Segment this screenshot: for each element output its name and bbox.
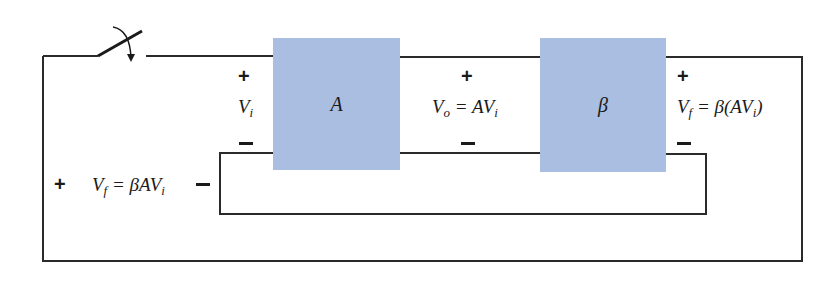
loop-plus-sign: + <box>54 174 66 194</box>
feedback-block: β <box>540 38 666 172</box>
outer-right-wire <box>801 56 803 262</box>
feedback-label: β <box>598 94 608 117</box>
input-plus-sign: + <box>238 66 250 86</box>
feedback-diagram: A β + Vi + Vo = AVi + Vf = β(AVi) + Vf =… <box>0 0 832 286</box>
feedback-top-output-wire <box>665 56 803 58</box>
mid-top-wire <box>400 56 540 58</box>
input-bottom-wire <box>220 152 273 154</box>
amplifier-label: A <box>330 93 342 116</box>
outer-bottom-wire <box>42 260 803 262</box>
amplifier-block: A <box>273 38 400 170</box>
feedback-minus-sign <box>677 142 691 145</box>
inner-left-wire <box>219 152 221 215</box>
input-minus-sign <box>239 142 253 145</box>
feedback-plus-sign: + <box>677 66 689 86</box>
feedback-voltage-label: Vf = β(AVi) <box>677 97 763 119</box>
input-voltage-label: Vi <box>238 97 253 119</box>
inner-bottom-wire <box>219 213 707 215</box>
loop-minus-sign <box>196 183 210 186</box>
output-plus-sign: + <box>461 66 473 86</box>
output-minus-sign <box>461 142 475 145</box>
outer-left-wire <box>42 56 44 262</box>
feedback-bottom-output-wire <box>665 153 707 155</box>
switch-icon <box>0 0 832 286</box>
loop-voltage-label: Vf = βAVi <box>92 175 165 197</box>
mid-bottom-wire <box>400 152 540 154</box>
output-voltage-label: Vo = AVi <box>432 97 498 119</box>
inner-right-wire <box>705 153 707 215</box>
